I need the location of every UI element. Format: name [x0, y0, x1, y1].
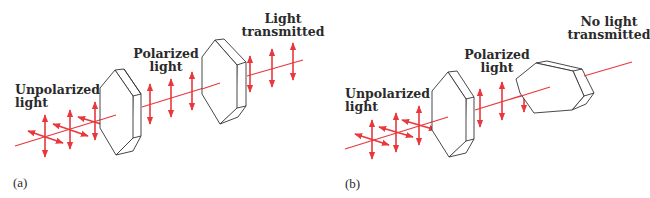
label-line: transmitted: [568, 28, 650, 41]
polarizer-icon: [432, 71, 474, 157]
polarizer-icon: [100, 69, 141, 155]
label-no-light-transmitted: No light transmitted: [568, 15, 650, 41]
light-beam-transmitted: [247, 60, 303, 76]
panel-label-b: (b): [345, 176, 360, 192]
beam-axis-after-analyzer: [584, 62, 632, 76]
label-unpolarized-light-a: Unpolarized light: [15, 83, 100, 109]
label-polarized-light-b: Polarized light: [464, 48, 529, 74]
label-line: light: [345, 100, 430, 113]
label-line: light: [464, 61, 529, 74]
polarized-wave-icon: [150, 72, 192, 124]
transmitted-wave-icon: [250, 43, 293, 92]
unpolarized-wave-icon: [28, 102, 111, 157]
analyzer-icon: [202, 39, 246, 124]
label-line: light: [133, 60, 198, 73]
label-line: transmitted: [242, 25, 325, 38]
label-line: light: [15, 96, 100, 109]
label-light-transmitted: Light transmitted: [242, 12, 325, 38]
label-unpolarized-light-b: Unpolarized light: [345, 87, 430, 113]
label-polarized-light-a: Polarized light: [133, 47, 198, 73]
panel-label-a: (a): [13, 175, 27, 191]
